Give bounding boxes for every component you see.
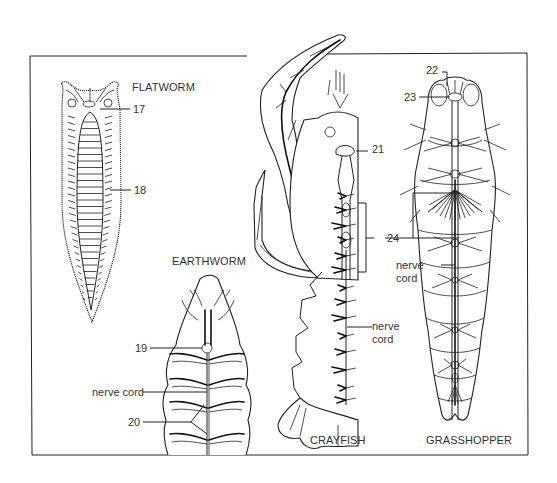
organism-title-earthworm: EARTHWORM (172, 255, 246, 267)
crayfish-abdomen (292, 272, 322, 405)
crayfish-nerve-branch (338, 385, 346, 391)
label-19: 19 (135, 342, 147, 354)
label-crayfish-nerve-line1: nerve (372, 320, 400, 332)
crayfish-carapace (290, 112, 358, 280)
label-17: 17 (133, 103, 145, 115)
label-20: 20 (128, 416, 140, 428)
label-24: 24 (387, 232, 399, 244)
crayfish-nerve-branch (335, 397, 346, 403)
crayfish-drawing (254, 35, 374, 449)
label-earthworm-nerve-cord: nerve cord (92, 386, 144, 398)
crayfish-nerve-branch (335, 299, 346, 305)
label-21: 21 (372, 143, 384, 155)
organism-title-crayfish: CRAYFISH (310, 434, 366, 446)
organism-title-flatworm: FLATWORM (132, 81, 195, 93)
label-18: 18 (134, 184, 146, 196)
label-grasshopper-nerve-line2: cord (396, 272, 417, 284)
crayfish-nerve-branch (338, 333, 346, 339)
label-22: 22 (426, 64, 438, 76)
crayfish-nerve-branch (346, 398, 356, 400)
crayfish-nerve-branch (332, 315, 346, 321)
crayfish-nerve-branch (346, 386, 354, 388)
crayfish-nerve-branch (335, 349, 346, 355)
crayfish-nerve-branch (346, 286, 354, 288)
grasshopper-drawing (385, 72, 510, 420)
leader-24-bracket-crayfish (358, 203, 374, 272)
nervous-systems-diagram (0, 0, 557, 483)
crayfish-nerve-branch (346, 300, 356, 302)
label-crayfish-nerve-line2: cord (372, 333, 393, 345)
flatworm-drawing (62, 82, 131, 322)
crayfish-nerve-branch (332, 367, 346, 373)
crayfish-nerve-branch (346, 334, 354, 336)
crayfish-nerve-branch (338, 285, 346, 291)
crayfish-nerve-branch (346, 368, 356, 370)
organism-title-grasshopper: GRASSHOPPER (426, 434, 512, 446)
label-23: 23 (404, 91, 416, 103)
crayfish-nerve-branch (346, 316, 356, 318)
crayfish-nerve-branch (346, 350, 356, 352)
flatworm-body (62, 82, 121, 322)
earthworm-drawing (143, 275, 251, 455)
label-grasshopper-nerve-line1: nerve (396, 259, 424, 271)
